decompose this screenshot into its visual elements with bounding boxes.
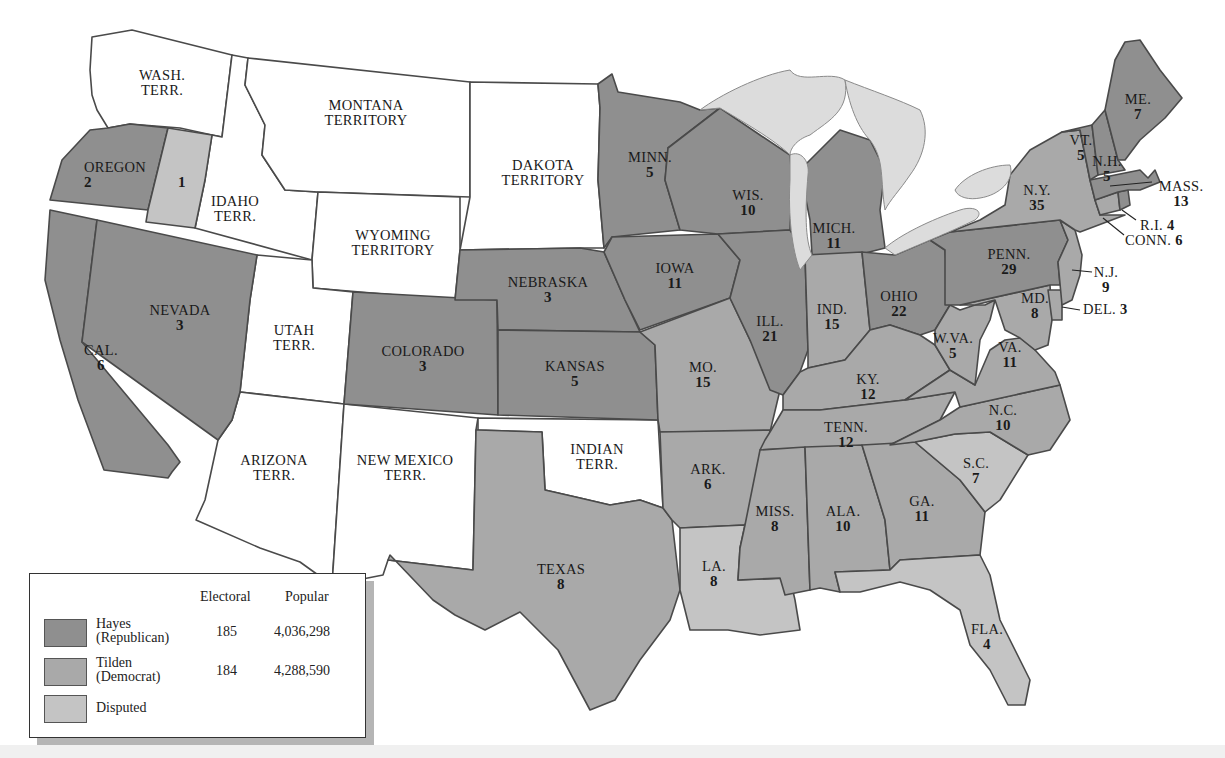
- rhode-island: [1118, 190, 1130, 210]
- michigan: [800, 130, 885, 262]
- legend-popular-tilden: 4,288,590: [274, 663, 330, 679]
- montana-territory: [245, 58, 470, 197]
- new-mexico-territory: [332, 404, 478, 585]
- lake-ontario: [955, 165, 1011, 199]
- legend-popular-hayes: 4,036,298: [274, 624, 330, 640]
- maine: [1105, 40, 1182, 160]
- bottom-band: [0, 745, 1225, 758]
- legend-name-disputed: Disputed: [96, 701, 147, 715]
- legend-swatch-hayes: [44, 619, 87, 647]
- del-leader: [1062, 307, 1080, 310]
- kansas: [498, 330, 658, 420]
- legend-header-electoral: Electoral: [200, 589, 251, 605]
- legend-name-tilden: Tilden(Democrat): [96, 656, 161, 684]
- legend-electoral-tilden: 184: [216, 663, 237, 679]
- ohio: [862, 240, 950, 335]
- wyoming-territory: [312, 192, 460, 300]
- oregon-hayes: [50, 124, 168, 210]
- florida: [835, 555, 1030, 705]
- legend-electoral-hayes: 185: [216, 624, 237, 640]
- dakota-territory: [460, 82, 604, 250]
- washington-territory: [90, 30, 232, 137]
- legend-name-hayes: Hayes(Republican): [96, 617, 169, 645]
- conn-leader: [1103, 218, 1124, 235]
- legend-swatch-tilden: [44, 658, 87, 686]
- colorado: [344, 292, 498, 415]
- legend-header-popular: Popular: [285, 589, 329, 605]
- legend-swatch-disputed: [44, 695, 87, 723]
- legend: Electoral Popular Hayes(Republican) 185 …: [29, 573, 366, 738]
